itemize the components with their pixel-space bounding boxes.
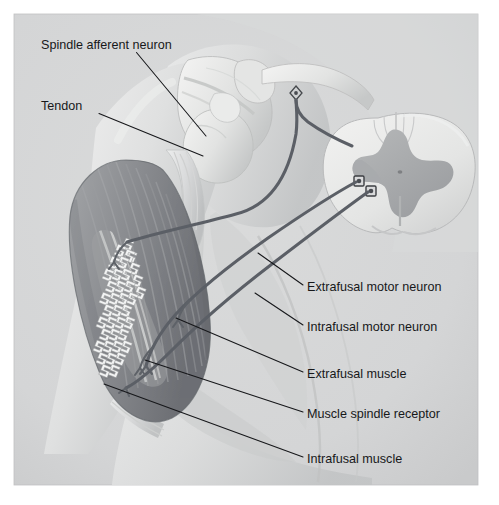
label-intrafusal-motor-neuron: Intrafusal motor neuron <box>307 320 437 334</box>
spinal-cord <box>323 112 475 234</box>
label-muscle-spindle-receptor: Muscle spindle receptor <box>307 407 440 421</box>
anatomy-figure: Spindle afferent neuron Tendon Extrafusa… <box>0 0 499 505</box>
label-spindle-afferent-neuron: Spindle afferent neuron <box>41 38 172 52</box>
label-extrafusal-muscle: Extrafusal muscle <box>307 367 406 381</box>
label-tendon: Tendon <box>41 99 82 113</box>
label-extrafusal-motor-neuron: Extrafusal motor neuron <box>307 280 441 294</box>
label-intrafusal-muscle: Intrafusal muscle <box>307 452 402 466</box>
anatomy-illustration: Spindle afferent neuron Tendon Extrafusa… <box>0 0 499 505</box>
